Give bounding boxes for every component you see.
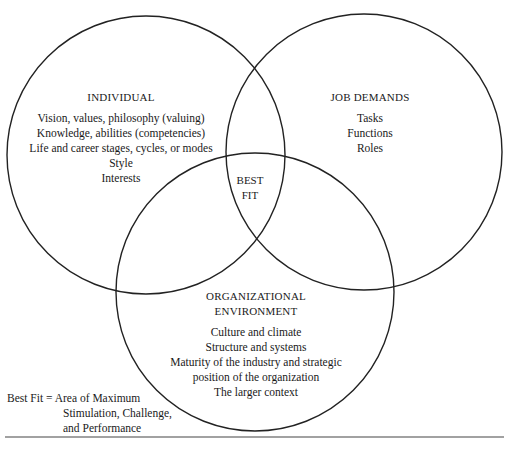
legend-line2: Stimulation, Challenge, [7, 406, 172, 421]
org-title-line2: ENVIRONMENT [150, 304, 362, 319]
individual-item: Knowledge, abilities (competencies) [10, 126, 232, 141]
job-demands-label-block: JOB DEMANDS Tasks Functions Roles [300, 90, 440, 156]
individual-title: INDIVIDUAL [10, 90, 232, 105]
individual-item: Style [10, 156, 232, 171]
legend-line1: Best Fit = Area of Maximum [7, 391, 172, 406]
best-fit-line1: BEST [222, 173, 278, 188]
org-item: position of the organization [150, 370, 362, 385]
best-fit-line2: FIT [222, 188, 278, 203]
individual-item: Interests [10, 171, 232, 186]
best-fit-legend: Best Fit = Area of Maximum Stimulation, … [7, 391, 172, 436]
organizational-environment-label-block: ORGANIZATIONAL ENVIRONMENT Culture and c… [150, 289, 362, 400]
job-demands-item: Tasks [300, 111, 440, 126]
org-item: Structure and systems [150, 340, 362, 355]
job-demands-title: JOB DEMANDS [300, 90, 440, 105]
best-fit-label: BEST FIT [222, 173, 278, 203]
individual-label-block: INDIVIDUAL Vision, values, philosophy (v… [10, 90, 232, 186]
individual-item: Life and career stages, cycles, or modes [10, 141, 232, 156]
org-item: Maturity of the industry and strategic [150, 355, 362, 370]
legend-line3: and Performance [7, 421, 172, 436]
job-demands-item: Roles [300, 141, 440, 156]
org-title-line1: ORGANIZATIONAL [150, 289, 362, 304]
org-item: Culture and climate [150, 325, 362, 340]
job-demands-item: Functions [300, 126, 440, 141]
individual-item: Vision, values, philosophy (valuing) [10, 111, 232, 126]
org-item: The larger context [150, 385, 362, 400]
